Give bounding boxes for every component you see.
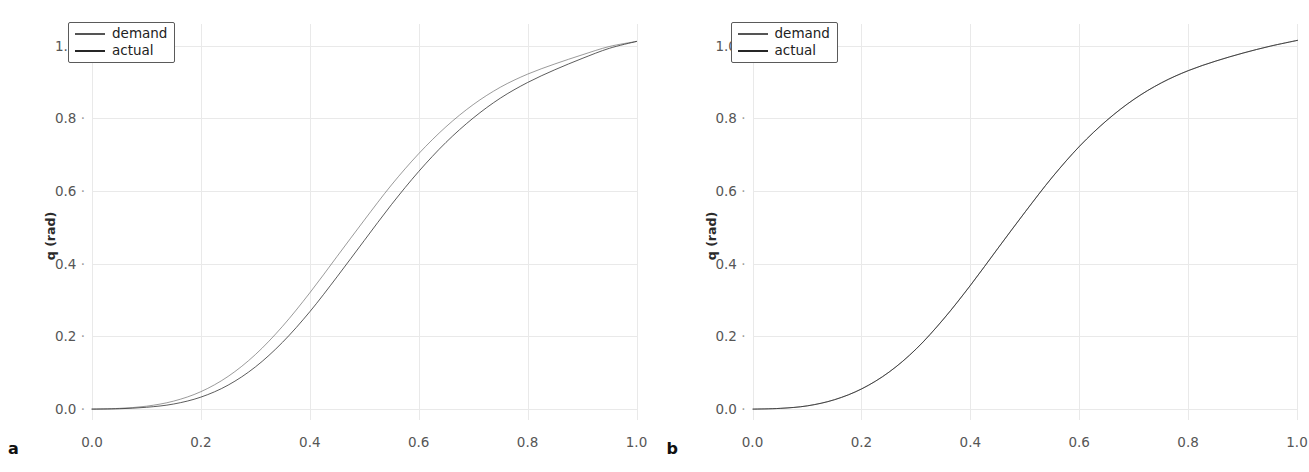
legend-line-swatch-icon (75, 33, 105, 35)
x-tick-label: 0.0 (742, 434, 763, 450)
curve-layer-a (92, 24, 637, 420)
legend-item-demand[interactable]: demand (75, 26, 167, 41)
y-tick-label: 0.8 · (55, 110, 85, 126)
panel-a: q (rad) a 0.0 ·0.2 ·0.4 ·0.6 ·0.8 ·1.0 ·… (0, 0, 655, 472)
y-tick-label: 0.4 · (715, 256, 745, 272)
legend-line-swatch-icon (738, 50, 768, 52)
legend-label: actual (775, 43, 817, 58)
x-tick-label: 1.0 (626, 434, 647, 450)
legend-line-swatch-icon (738, 33, 768, 35)
y-axis-label-b: q (rad) (703, 212, 718, 260)
series-line-actual (92, 41, 637, 409)
y-tick-label: 0.8 · (715, 110, 745, 126)
legend-label: actual (112, 43, 154, 58)
x-tick-label: 0.4 (960, 434, 981, 450)
y-tick-label: 0.4 · (55, 256, 85, 272)
y-tick-label: 0.0 · (55, 401, 85, 417)
panel-b: q (rad) b 0.0 ·0.2 ·0.4 ·0.6 ·0.8 ·1.0 ·… (655, 0, 1309, 472)
x-tick-label: 0.6 (1068, 434, 1089, 450)
y-axis-label-a: q (rad) (43, 212, 58, 260)
x-tick-label: 1.0 (1286, 434, 1307, 450)
x-tick-label: 0.2 (851, 434, 872, 450)
x-tick-label: 0.8 (517, 434, 538, 450)
series-line-actual (753, 40, 1298, 409)
y-tick-label: 0.2 · (55, 328, 85, 344)
x-tick-label: 0.4 (299, 434, 320, 450)
y-tick-label: 0.0 · (715, 401, 745, 417)
x-tick-label: 0.0 (81, 434, 102, 450)
legend-item-actual[interactable]: actual (75, 43, 167, 58)
figure-two-panel-tracking-plot: q (rad) a 0.0 ·0.2 ·0.4 ·0.6 ·0.8 ·1.0 ·… (0, 0, 1309, 472)
curve-layer-b (753, 24, 1298, 420)
series-line-demand (92, 41, 637, 409)
legend-item-demand[interactable]: demand (738, 26, 830, 41)
x-tick-label: 0.6 (408, 434, 429, 450)
panel-label-b: b (667, 439, 678, 458)
legend-label: demand (112, 26, 167, 41)
legend-item-actual[interactable]: actual (738, 43, 830, 58)
gridline-vertical (1297, 24, 1298, 420)
y-tick-label: 0.2 · (715, 328, 745, 344)
gridline-vertical (637, 24, 638, 420)
x-tick-label: 0.2 (190, 434, 211, 450)
y-tick-label: 0.6 · (715, 183, 745, 199)
legend-b: demandactual (731, 22, 838, 63)
y-tick-label: 0.6 · (55, 183, 85, 199)
panel-label-a: a (8, 439, 19, 458)
plot-area-b: 0.0 ·0.2 ·0.4 ·0.6 ·0.8 ·1.0 · 0.00.20.4… (753, 24, 1298, 420)
x-tick-label: 0.8 (1177, 434, 1198, 450)
series-line-demand (753, 40, 1298, 409)
legend-a: demandactual (68, 22, 175, 63)
legend-line-swatch-icon (75, 50, 105, 52)
plot-area-a: 0.0 ·0.2 ·0.4 ·0.6 ·0.8 ·1.0 · 0.00.20.4… (92, 24, 637, 420)
legend-label: demand (775, 26, 830, 41)
